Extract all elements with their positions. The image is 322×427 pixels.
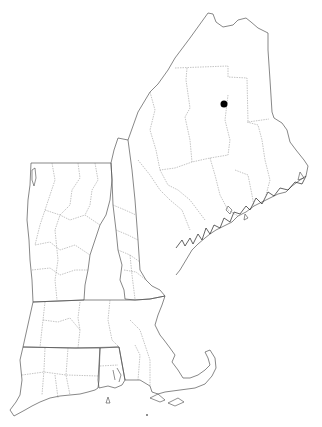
cape-cod-and-islands [106,394,184,416]
state-connecticut [10,347,100,416]
new-england-county-map [0,0,322,427]
state-rhode-island [98,347,125,388]
location-marker [221,101,228,108]
state-new-hampshire [111,138,165,300]
lake-champlain [32,168,36,186]
state-vermont [27,163,112,302]
coastline-maine [176,172,306,248]
state-maine [128,13,308,275]
